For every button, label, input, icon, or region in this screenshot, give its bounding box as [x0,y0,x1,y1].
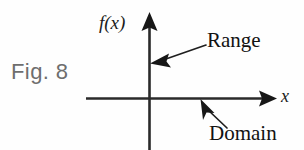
range-annotation-label: Range [207,30,261,51]
domain-annotation-label: Domain [209,123,277,144]
range-leader-line [163,45,206,60]
range-arrowhead-icon [150,54,171,68]
y-axis-label: f(x) [99,13,125,32]
figure-caption: Fig. 8 [11,61,68,83]
domain-arrowhead-icon [201,99,215,120]
x-axis-label: x [281,87,289,105]
figure-container: Fig. 8 f(x) x Range Domain [0,0,304,150]
